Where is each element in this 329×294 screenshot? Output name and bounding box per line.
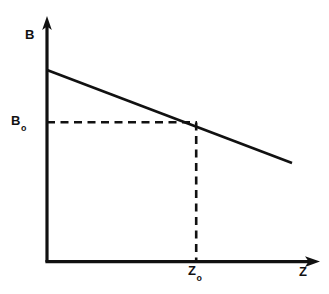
z0-label-subscript: o (196, 273, 201, 283)
plot-canvas (0, 0, 329, 294)
x-axis-label: Z (299, 265, 307, 278)
figure-container: B Bo Zo Z (0, 0, 329, 294)
z0-label-base: Z (188, 263, 196, 278)
b0-label-base: B (11, 113, 20, 128)
b0-label-subscript: o (21, 123, 26, 133)
data-series-line (47, 70, 292, 163)
b0-value-label: Bo (11, 114, 26, 130)
y-axis-label: B (25, 28, 34, 41)
z0-value-label: Zo (188, 264, 201, 280)
